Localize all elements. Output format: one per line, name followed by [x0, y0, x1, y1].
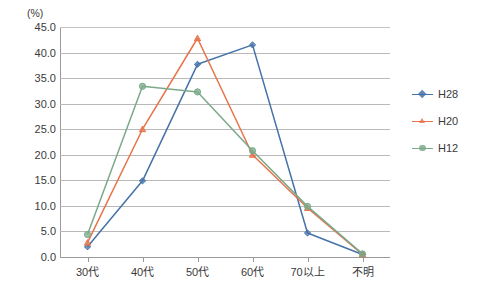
- grid-line: [60, 257, 390, 258]
- y-axis-tick-label: 40.0: [35, 47, 56, 59]
- data-point: [249, 148, 255, 154]
- series-H12: [84, 83, 365, 257]
- y-axis-tick-label: 10.0: [35, 200, 56, 212]
- x-axis-tick-label: 70以上: [290, 263, 324, 279]
- data-point: [359, 251, 365, 257]
- legend-label: H20: [438, 115, 458, 127]
- series-line: [88, 86, 363, 254]
- series-H20: [84, 35, 365, 257]
- x-axis-tick-label: 60代: [241, 263, 264, 279]
- data-point: [194, 35, 200, 41]
- series-H28: [84, 42, 365, 258]
- legend-item-H20[interactable]: H20: [412, 115, 458, 127]
- x-axis-tick-mark: [143, 257, 144, 262]
- y-axis-tick-label: 15.0: [35, 174, 56, 186]
- legend-swatch-icon: [412, 116, 433, 127]
- y-axis-tick-label: 5.0: [41, 225, 56, 237]
- plot-area: [60, 27, 390, 257]
- x-axis-tick-label: 不明: [352, 263, 374, 279]
- series-line: [88, 45, 363, 255]
- x-axis-tick-label: 50代: [186, 263, 209, 279]
- chart-legend: H28H20H12: [412, 88, 458, 154]
- data-point: [249, 42, 255, 48]
- legend-swatch-icon: [412, 143, 433, 154]
- y-axis-tick-label: 45.0: [35, 21, 56, 33]
- legend-item-H12[interactable]: H12: [412, 142, 458, 154]
- x-axis-tick-label: 30代: [76, 263, 99, 279]
- series-line: [88, 38, 363, 254]
- legend-item-H28[interactable]: H28: [412, 88, 458, 100]
- y-axis-unit-label: (%): [27, 7, 43, 19]
- series-layer: [60, 27, 390, 257]
- legend-label: H28: [438, 88, 458, 100]
- x-axis-tick-mark: [308, 257, 309, 262]
- data-point: [139, 83, 145, 89]
- y-axis-tick-label: 35.0: [35, 72, 56, 84]
- data-point: [304, 230, 310, 236]
- x-axis-tick-mark: [253, 257, 254, 262]
- data-point: [84, 231, 90, 237]
- data-point: [304, 203, 310, 209]
- y-axis-tick-label: 0.0: [41, 251, 56, 263]
- data-point: [194, 61, 200, 67]
- y-axis-tick-label: 20.0: [35, 149, 56, 161]
- x-axis-tick-mark: [88, 257, 89, 262]
- x-axis-tick-label: 40代: [131, 263, 154, 279]
- y-axis-tick-label: 30.0: [35, 98, 56, 110]
- x-axis-tick-mark: [198, 257, 199, 262]
- line-chart: (%) 0.05.010.015.020.025.030.035.040.045…: [0, 0, 495, 304]
- data-point: [194, 89, 200, 95]
- legend-swatch-icon: [412, 89, 433, 100]
- y-axis-tick-label: 25.0: [35, 123, 56, 135]
- y-axis-tick-labels: 0.05.010.015.020.025.030.035.040.045.0: [14, 27, 56, 257]
- legend-label: H12: [438, 142, 458, 154]
- data-point: [84, 240, 90, 246]
